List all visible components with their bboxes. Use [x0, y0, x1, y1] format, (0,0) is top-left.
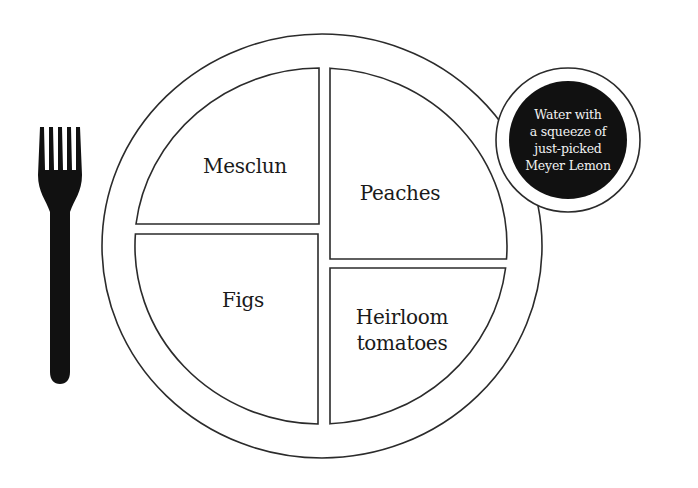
section-label-mesclun: Mesclun — [203, 153, 287, 179]
label-line: Figs — [222, 287, 264, 313]
glass-label-line: Meyer Lemon — [525, 157, 611, 174]
label-line: Heirloom — [356, 304, 448, 330]
section-label-peaches: Peaches — [360, 180, 440, 206]
label-line: Mesclun — [203, 153, 287, 179]
glass-label-line: just-picked — [525, 140, 611, 157]
plate-section-bottom-left[interactable] — [135, 234, 318, 424]
section-label-heirloom-tomatoes: Heirloom tomatoes — [356, 304, 448, 356]
glass-label: Water with a squeeze of just-picked Meye… — [525, 106, 611, 174]
plate-diagram — [0, 0, 698, 488]
glass-label-line: a squeeze of — [525, 123, 611, 140]
plate-section-top-right[interactable] — [330, 68, 507, 259]
section-label-figs: Figs — [222, 287, 264, 313]
glass-label-line: Water with — [525, 106, 611, 123]
label-line: tomatoes — [356, 330, 448, 356]
fork-icon — [38, 127, 82, 384]
label-line: Peaches — [360, 180, 440, 206]
